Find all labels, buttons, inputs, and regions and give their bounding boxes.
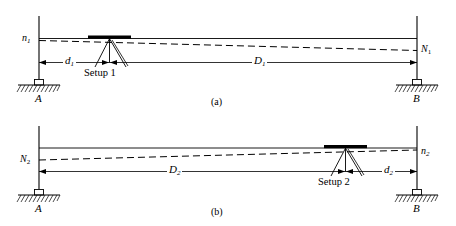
dim-arrow-D1-right bbox=[410, 60, 417, 65]
station-label-b-right: B bbox=[413, 203, 420, 214]
dim-arrow-d2-left bbox=[346, 169, 353, 174]
reading-label-N2: N2 bbox=[20, 154, 30, 166]
benchmark-b-left bbox=[17, 190, 60, 203]
station-label-b-left: A bbox=[35, 203, 42, 214]
reading-label-n1: n1 bbox=[22, 33, 31, 45]
instrument-label-setup-2: Setup 2 bbox=[318, 177, 350, 188]
station-label-a-left: A bbox=[35, 93, 42, 104]
benchmark-a-left bbox=[17, 80, 60, 93]
line-of-sight-a bbox=[39, 41, 417, 51]
panel-b: N2 n2 D2 d2 Setup 2 A B (b) bbox=[0, 113, 456, 226]
distance-label-D1: D1 bbox=[252, 55, 267, 68]
line-of-sight-b bbox=[39, 150, 417, 160]
figure-root: n1 N1 d1 D1 Setup 1 A B (a) bbox=[0, 0, 456, 226]
dim-arrow-d1-right bbox=[102, 60, 109, 65]
reading-label-N1: N1 bbox=[421, 44, 431, 56]
panel-a: n1 N1 d1 D1 Setup 1 A B (a) bbox=[0, 0, 456, 113]
dim-arrow-d1-left bbox=[39, 60, 46, 65]
benchmark-b-right bbox=[395, 190, 438, 203]
dim-arrow-D2-left bbox=[39, 169, 46, 174]
panel-caption-a: (a) bbox=[211, 97, 222, 107]
panel-caption-b: (b) bbox=[211, 207, 223, 217]
instrument-label-setup-1: Setup 1 bbox=[84, 68, 116, 79]
distance-label-D2: D2 bbox=[167, 164, 182, 177]
instrument-bar-b bbox=[324, 145, 367, 148]
dim-arrow-D2-right bbox=[338, 169, 345, 174]
reading-label-n2: n2 bbox=[421, 146, 430, 158]
dim-arrow-d2-right bbox=[410, 169, 417, 174]
distance-label-d1: d1 bbox=[63, 55, 76, 68]
station-label-a-right: B bbox=[413, 93, 420, 104]
benchmark-a-right bbox=[395, 80, 438, 93]
instrument-bar-a bbox=[88, 36, 131, 39]
dim-arrow-D1-left bbox=[110, 60, 117, 65]
distance-label-d2: d2 bbox=[382, 164, 395, 177]
